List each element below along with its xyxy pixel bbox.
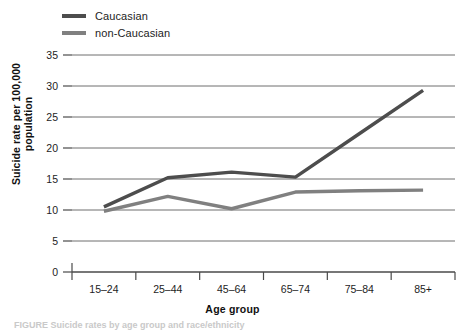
y-tick-label: 20 bbox=[46, 142, 58, 154]
y-axis-title: Suicide rate per 100,000 population bbox=[10, 39, 34, 209]
y-tick-labels: 05101520253035 bbox=[46, 49, 58, 278]
y-tick-label: 35 bbox=[46, 49, 58, 61]
x-tick-label: 25–44 bbox=[153, 283, 182, 295]
y-tick-label: 25 bbox=[46, 111, 58, 123]
x-tick-marks bbox=[72, 272, 455, 280]
chart-svg: 05101520253035 15–2425–4445–6465–7475–84… bbox=[0, 0, 465, 300]
series-line bbox=[104, 190, 423, 211]
x-tick-label: 85+ bbox=[414, 283, 432, 295]
data-series bbox=[104, 90, 423, 211]
plot-area: 05101520253035 15–2425–4445–6465–7475–84… bbox=[0, 0, 465, 300]
x-axis-title: Age group bbox=[0, 303, 465, 315]
x-tick-label: 45–64 bbox=[217, 283, 246, 295]
y-tick-label: 5 bbox=[52, 235, 58, 247]
y-tick-label: 30 bbox=[46, 80, 58, 92]
y-tick-label: 15 bbox=[46, 173, 58, 185]
x-tick-label: 15–24 bbox=[89, 283, 118, 295]
y-tick-label: 0 bbox=[52, 266, 58, 278]
x-tick-label: 65–74 bbox=[281, 283, 310, 295]
x-tick-label: 75–84 bbox=[345, 283, 374, 295]
figure-caption: FIGURE Suicide rates by age group and ra… bbox=[14, 320, 464, 330]
gridlines bbox=[63, 55, 455, 272]
y-tick-label: 10 bbox=[46, 204, 58, 216]
x-tick-labels: 15–2425–4445–6465–7475–8485+ bbox=[89, 283, 432, 295]
